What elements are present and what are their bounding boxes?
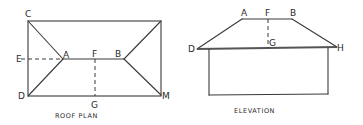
hip-line-c-a: [28, 21, 63, 59]
label-g: G: [269, 38, 276, 48]
label-g: G: [91, 100, 98, 110]
hip-roof-diagram: C E A F B D G M ROOF PLAN A F B D G H EL…: [0, 0, 363, 125]
label-b: B: [290, 8, 296, 18]
label-f: F: [92, 49, 97, 59]
label-m: M: [162, 91, 170, 101]
label-c: C: [25, 9, 31, 19]
hip-line-d-a: [28, 59, 63, 96]
roof-slope-d-a: [197, 19, 242, 49]
elevation-caption: ELEVATION: [234, 107, 275, 115]
wall-base: [209, 94, 328, 95]
label-b: B: [115, 49, 121, 59]
roof-plan-caption: ROOF PLAN: [55, 112, 98, 120]
hip-line-b-m: [124, 59, 161, 95]
label-e: E: [16, 54, 22, 64]
roof-slope-b-h: [292, 19, 337, 47]
label-d: D: [18, 91, 25, 101]
label-d: D: [188, 44, 195, 54]
label-f: F: [265, 8, 270, 18]
hip-line-b-top-right: [124, 21, 161, 59]
label-a: A: [63, 50, 70, 60]
elevation: A F B D G H ELEVATION: [188, 8, 344, 115]
label-h: H: [337, 43, 344, 53]
label-a: A: [241, 8, 248, 18]
eave-line-d-h: [197, 47, 337, 49]
roof-plan: C E A F B D G M ROOF PLAN: [16, 9, 170, 120]
